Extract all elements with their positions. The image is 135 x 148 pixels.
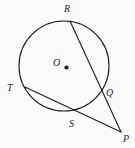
- vertex-label-O: O: [53, 58, 60, 68]
- circle-O: [19, 21, 109, 111]
- circle-group: [19, 21, 109, 111]
- vertex-label-R: R: [64, 4, 70, 14]
- geometry-canvas: [0, 0, 135, 148]
- center-point-O-dot: [64, 65, 68, 69]
- vertex-label-P: P: [123, 134, 129, 144]
- center-dot-group: [64, 65, 68, 69]
- segments-group: [25, 21, 121, 132]
- vertex-label-S: S: [69, 119, 74, 129]
- vertex-label-Q: Q: [106, 88, 113, 98]
- secant-R-to-P-line: [70, 21, 121, 132]
- vertex-label-T: T: [7, 83, 13, 93]
- geometry-figure: R T Q S O P: [0, 0, 135, 148]
